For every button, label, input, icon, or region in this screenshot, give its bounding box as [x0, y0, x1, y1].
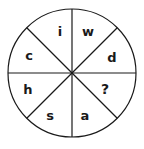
- sector-label-upper-left: c: [19, 46, 39, 66]
- wheel-diagram: [0, 0, 144, 149]
- sector-label-bottom-right: a: [75, 106, 95, 126]
- sector-label-lower-right-unknown: ?: [95, 79, 115, 99]
- sector-label-bottom-left: s: [40, 106, 60, 126]
- sector-label-top-left: i: [50, 22, 70, 42]
- sector-label-lower-left: h: [18, 80, 38, 100]
- sector-label-upper-right: d: [102, 48, 122, 68]
- sector-label-top-right: w: [78, 22, 98, 42]
- letter-wheel-figure: i w d ? a s h c: [0, 0, 144, 149]
